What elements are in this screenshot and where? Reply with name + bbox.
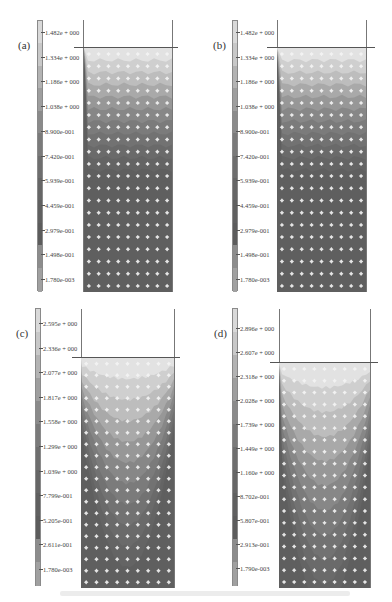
colorbar-segment — [36, 470, 40, 494]
colorbar-tick-label: 1.790e-003 — [240, 565, 269, 572]
colorbar-tick-label: 2.028e + 000 — [240, 397, 274, 404]
colorbar-tick-label: 5.939e-001 — [45, 177, 74, 184]
colorbar-tick-label: 1.498e-001 — [45, 251, 74, 258]
colorbar-tick-label: 1.038e + 000 — [240, 103, 274, 110]
colorbar-segment — [233, 424, 237, 448]
colorbar-tick-label: 1.780e-003 — [43, 566, 72, 573]
colorbar-segment — [233, 539, 237, 563]
colorbar-segment — [36, 447, 40, 471]
colorbar-tick-label: 8.900e-001 — [45, 128, 74, 135]
colorbar-tick-label: 1.186e + 000 — [240, 78, 274, 85]
colorbar-segment — [36, 309, 40, 333]
colorbar-tick-label: 1.160e + 000 — [240, 469, 274, 476]
colorbar-segment — [36, 424, 40, 448]
pressure-field-a — [84, 48, 172, 292]
pressure-field-c — [81, 358, 174, 588]
colorbar-segment — [233, 88, 237, 112]
colorbar-segment — [38, 156, 42, 180]
colorbar-segment — [233, 378, 237, 402]
free-surface-d — [270, 362, 378, 363]
colorbar-tick-label: 2.077e + 000 — [43, 369, 77, 376]
colorbar-tick-label: 1.498e-001 — [240, 251, 269, 258]
colorbar-segment — [38, 223, 42, 247]
colorbar-tick-label: 1.449e + 000 — [240, 445, 274, 452]
colorbar-segment — [36, 539, 40, 563]
colorbar-tick-label: 1.334e + 000 — [45, 54, 79, 61]
right-wall-b — [366, 20, 367, 292]
colorbar-segment — [233, 43, 237, 67]
colorbar-segment — [36, 355, 40, 379]
colorbar-tick-label: 1.739e + 000 — [240, 421, 274, 428]
colorbar-tick-label: 1.038e + 000 — [45, 103, 79, 110]
colorbar-tick-label: 1.334e + 000 — [240, 54, 274, 61]
colorbar-tick-label: 1.039e + 000 — [43, 468, 77, 475]
colorbar-tick-label: 2.979e-001 — [240, 227, 269, 234]
colorbar-tick-label: 7.799e-001 — [43, 492, 72, 499]
colorbar-tick-label: 5.205e-001 — [43, 517, 72, 524]
colorbar-segment — [38, 245, 42, 269]
colorbar-segment — [233, 223, 237, 247]
colorbar-tick-label: 1.780e-003 — [240, 276, 269, 283]
colorbar-segment — [233, 309, 237, 333]
colorbar-tick-label: 2.896e + 000 — [240, 325, 274, 332]
colorbar-tick-label: 2.318e + 000 — [240, 373, 274, 380]
colorbar-segment — [233, 133, 237, 157]
colorbar-segment — [38, 88, 42, 112]
colorbar-segment — [38, 133, 42, 157]
colorbar-tick-label: 7.420e-001 — [240, 153, 269, 160]
colorbar-tick-label: 2.336e + 000 — [43, 345, 77, 352]
colorbar-tick-label: 2.979e-001 — [45, 227, 74, 234]
colorbar-tick-label: 1.186e + 000 — [45, 78, 79, 85]
colorbar-tick-label: 5.939e-001 — [240, 177, 269, 184]
colorbar-tick-label: 1.299e + 000 — [43, 443, 77, 450]
panel-label-c: (c) — [16, 327, 28, 339]
colorbar-tick-label: 1.482e + 000 — [240, 29, 274, 36]
colorbar-tick-label: 1.558e + 000 — [43, 418, 77, 425]
colorbar-tick-label: 2.595e + 000 — [43, 320, 77, 327]
colorbar-segment — [38, 178, 42, 202]
free-surface-b — [267, 47, 375, 48]
colorbar-segment — [233, 401, 237, 425]
pressure-field-d — [279, 363, 370, 588]
colorbar-tick-label: 4.459e-001 — [45, 202, 74, 209]
colorbar-segment — [233, 562, 237, 586]
colorbar-segment — [233, 178, 237, 202]
colorbar-tick-label: 5.807e-001 — [240, 517, 269, 524]
colorbar-segment — [36, 378, 40, 402]
panel-label-a: (a) — [18, 39, 30, 51]
colorbar-tick-label: 8.702e-001 — [240, 493, 269, 500]
colorbar-tick-label: 4.459e-001 — [240, 202, 269, 209]
colorbar-segment — [233, 470, 237, 494]
figure-caption-placeholder — [60, 591, 350, 596]
colorbar-tick-label: 8.900e-001 — [240, 128, 269, 135]
right-wall-a — [172, 20, 173, 292]
pressure-field-b — [277, 48, 366, 292]
right-wall-c — [174, 309, 175, 588]
colorbar-segment — [233, 447, 237, 471]
colorbar-tick-label: 2.607e + 000 — [240, 349, 274, 356]
right-wall-d — [370, 309, 371, 588]
free-surface-a — [74, 47, 178, 48]
colorbar-segment — [38, 21, 42, 45]
colorbar-tick-label: 1.780e-003 — [45, 276, 74, 283]
free-surface-c — [72, 357, 180, 358]
colorbar-segment — [233, 245, 237, 269]
colorbar-tick-label: 2.611e-001 — [43, 541, 72, 548]
panel-label-d: (d) — [214, 327, 227, 339]
colorbar-segment — [36, 562, 40, 586]
colorbar-segment — [38, 43, 42, 67]
colorbar-tick-label: 1.817e + 000 — [43, 394, 77, 401]
colorbar-tick-label: 1.482e + 000 — [45, 29, 79, 36]
colorbar-segment — [233, 156, 237, 180]
colorbar-segment — [36, 493, 40, 517]
colorbar-segment — [233, 21, 237, 45]
colorbar-segment — [36, 332, 40, 356]
panel-label-b: (b) — [213, 39, 226, 51]
colorbar-tick-label: 7.420e-001 — [45, 153, 74, 160]
colorbar-segment — [38, 66, 42, 90]
colorbar-tick-label: 2.913e-001 — [240, 541, 269, 548]
colorbar-segment — [233, 66, 237, 90]
